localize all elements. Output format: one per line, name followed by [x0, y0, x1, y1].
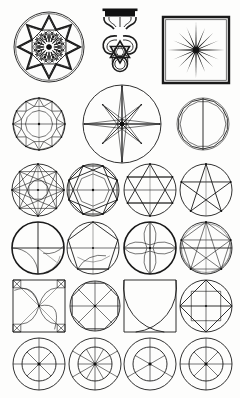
compass-row: Circle with inscribed twelve-point facet… — [12, 85, 229, 163]
star-polygon-row: Eight-pointed star polygon in circleOcta… — [11, 163, 232, 217]
arabesque-medallion: Circular arabesque medallion with eight-… — [14, 12, 84, 82]
facet-circle: Circle with inscribed twelve-point facet… — [12, 97, 66, 151]
plate-canvas: Circular arabesque medallion with eight-… — [0, 0, 240, 398]
compass-rose: Eight-point compass rose in circle — [83, 85, 161, 163]
axis-arc-circle: Circle with cross axes and construction … — [12, 222, 64, 274]
interlace-pendant: Vertical pendant finial with interlaced … — [103, 9, 138, 72]
geometric-plate: Circular arabesque medallion with eight-… — [0, 0, 240, 398]
rosette-six: Double circle rosette with six spokes — [124, 338, 176, 390]
diamond-circle: Circle with inscribed square rotated as … — [180, 280, 232, 332]
rosette-eight: Double circle rosette with eight spokes — [13, 338, 65, 390]
ogee-square: Square with two crossing arcs forming og… — [123, 280, 176, 332]
rosette-row: Double circle rosette with eight spokesD… — [13, 338, 232, 390]
spoked-circle: Circle with octagon and eight radial spo… — [70, 281, 120, 331]
rosette-eight-cross: Double circle rosette with eight spokes … — [180, 338, 232, 390]
rosette-twelve: Double circle rosette with twelve spokes — [69, 338, 121, 390]
petal-circle: Circle with four curved petal arcs — [124, 222, 176, 274]
sunburst-square: Square frame enclosing sixteen-ray sunbu… — [163, 17, 229, 83]
square-row: Square with corner squares, diagonals an… — [13, 280, 232, 332]
pentagram-arc-circle: Pentagon and pentagram with construction… — [180, 221, 232, 274]
octagram-star: Eight-pointed star polygon in circle — [11, 163, 65, 217]
octagon-square-star: Octagon with two inscribed squares in ci… — [67, 164, 119, 216]
hexagram-star: Hexagram in circle with chords — [124, 163, 176, 217]
ornament-row: Circular arabesque medallion with eight-… — [14, 9, 229, 84]
polygon-circle: Circle with inscribed many-sided polygon… — [177, 98, 229, 150]
pentagon-construction: Pentagon inscribed in circle with chords — [67, 221, 119, 274]
pentagram-star: Inverted pentagram in circle — [180, 163, 232, 216]
construction-row: Circle with cross axes and construction … — [12, 221, 232, 274]
pinwheel-square: Square with corner squares, diagonals an… — [13, 280, 65, 332]
